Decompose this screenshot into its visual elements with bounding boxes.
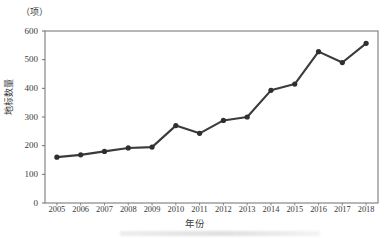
- data-point: [316, 49, 321, 54]
- x-axis-title: 年份: [0, 216, 390, 230]
- series-line-地标数量: [57, 43, 366, 157]
- scan-artifact: [120, 231, 320, 236]
- axis-tick-marks: [42, 31, 366, 206]
- data-point: [221, 118, 226, 123]
- data-point: [340, 60, 345, 65]
- data-point: [54, 155, 59, 160]
- data-point: [364, 41, 369, 46]
- data-point: [78, 152, 83, 157]
- data-point: [245, 114, 250, 119]
- line-chart-plot: [0, 0, 390, 238]
- data-point: [292, 81, 297, 86]
- data-point: [149, 145, 154, 150]
- data-point: [173, 123, 178, 128]
- chart-figure: （项） 地标数量 0100200300400500600 20052006200…: [0, 0, 390, 238]
- data-point: [268, 88, 273, 93]
- series-markers: [54, 41, 368, 160]
- data-point: [126, 145, 131, 150]
- data-point: [102, 149, 107, 154]
- data-point: [197, 131, 202, 136]
